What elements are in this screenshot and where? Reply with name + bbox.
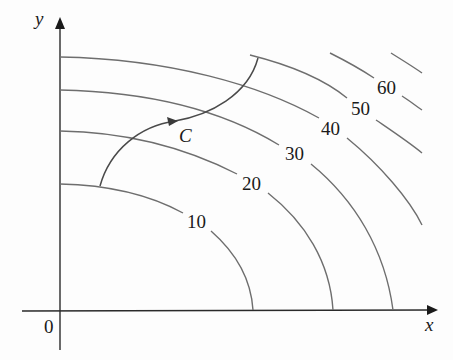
contour-10 xyxy=(60,184,183,213)
contour-label-10: 10 xyxy=(187,211,206,232)
contour-label-30: 30 xyxy=(285,143,304,164)
x-axis-label: x xyxy=(424,314,434,335)
contour-label-40: 40 xyxy=(321,118,340,139)
contour-label-50: 50 xyxy=(351,98,370,119)
contour-diagram: y x 0 C 10 20 30 40 50 60 xyxy=(0,0,453,360)
contour-30-lower xyxy=(311,164,393,310)
contour-label-20: 20 xyxy=(242,173,261,194)
contour-30 xyxy=(60,90,279,145)
contour-label-60: 60 xyxy=(377,77,396,98)
contour-50-lower xyxy=(376,120,422,153)
origin-label: 0 xyxy=(44,316,54,337)
contour-60 xyxy=(330,53,374,78)
curve-c-label: C xyxy=(179,125,192,146)
x-axis xyxy=(22,310,430,311)
contour-50 xyxy=(250,55,347,98)
direction-arrow-icon xyxy=(167,117,178,126)
y-axis-arrow-icon xyxy=(55,17,65,29)
contour-20 xyxy=(60,131,237,174)
contour-40-lower xyxy=(347,138,422,225)
contour-70-partial xyxy=(391,53,422,73)
contour-plot: y x 0 C 10 20 30 40 50 60 xyxy=(0,0,453,360)
contour-20-lower xyxy=(268,193,333,310)
contour-10-lower xyxy=(211,231,253,310)
y-axis-label: y xyxy=(33,8,44,29)
contour-40 xyxy=(60,57,319,118)
contour-60-lower xyxy=(402,96,422,110)
